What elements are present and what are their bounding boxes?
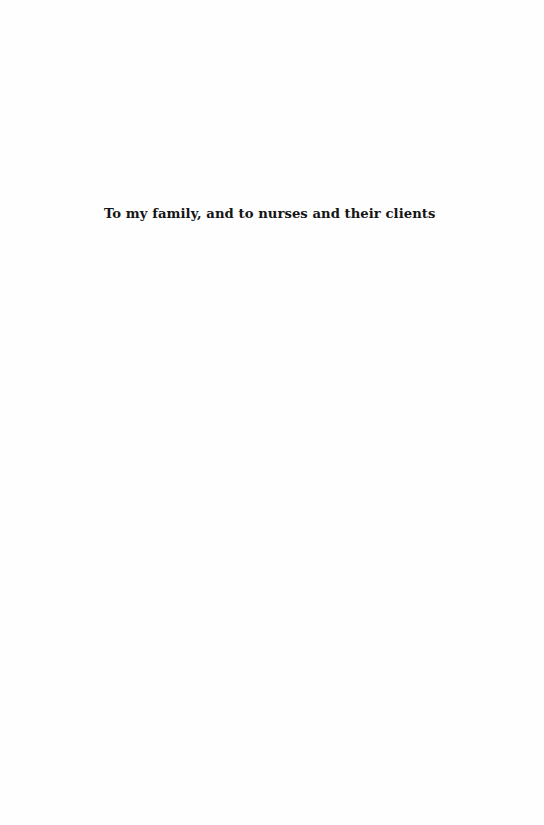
dedication-text: To my family, and to nurses and their cl… (104, 205, 424, 223)
book-page: To my family, and to nurses and their cl… (0, 0, 544, 825)
